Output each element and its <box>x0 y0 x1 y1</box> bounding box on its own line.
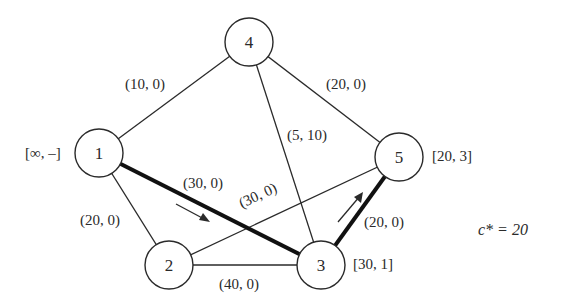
node-5: 5 <box>375 133 423 181</box>
node-2: 2 <box>145 241 193 289</box>
node-1-label: 1 <box>95 144 104 163</box>
edge-4-3-label: (5, 10) <box>287 128 327 143</box>
node-2-label: 2 <box>165 256 174 275</box>
edge-3-5-label: (20, 0) <box>364 215 404 230</box>
node-3-tag: [30, 1] <box>353 257 393 272</box>
edge-1-2-label: (20, 0) <box>80 213 120 228</box>
edge-1-4 <box>99 42 249 153</box>
arrow-icon-3-5 <box>338 192 363 222</box>
node-4-label: 4 <box>245 33 254 52</box>
edge-1-3-label: (30, 0) <box>183 176 223 191</box>
graph-canvas: 1 2 3 4 5 <box>0 0 561 308</box>
cstar-text: c* = 20 <box>478 221 528 238</box>
max-flow-annotation: c* = 20 <box>478 222 528 238</box>
edge-2-3-label: (40, 0) <box>219 277 259 292</box>
edge-2-5 <box>169 157 399 265</box>
node-5-tag: [20, 3] <box>432 149 472 164</box>
node-4: 4 <box>225 18 273 66</box>
network-flow-diagram: 1 2 3 4 5 [∞, –] [30, 1] [20, 3] (10, 0)… <box>0 0 561 308</box>
node-1-tag: [∞, –] <box>25 146 61 161</box>
node-3-label: 3 <box>317 256 326 275</box>
edge-4-3 <box>249 42 321 265</box>
node-1: 1 <box>75 129 123 177</box>
edge-1-4-label: (10, 0) <box>125 77 165 92</box>
edge-4-5-label: (20, 0) <box>326 77 366 92</box>
node-3: 3 <box>297 241 345 289</box>
node-5-label: 5 <box>395 148 404 167</box>
